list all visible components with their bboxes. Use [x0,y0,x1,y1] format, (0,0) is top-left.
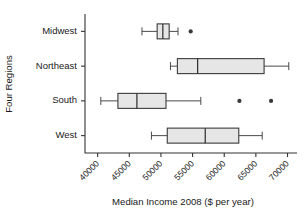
outlier-point [189,29,193,33]
y-tick-label: Northeast [36,60,78,71]
y-tick-label: Midwest [42,25,77,36]
x-tick-label: 45000 [109,158,133,182]
y-tick-label: West [56,129,78,140]
y-tick-label: South [52,94,77,105]
y-axis-title: Four Regions [3,55,14,113]
x-tick-label: 70000 [267,158,291,182]
box [167,128,239,143]
x-tick-label: 40000 [77,158,101,182]
x-tick-label: 55000 [172,158,196,182]
box-series [101,24,289,143]
x-axis-title: Median Income 2008 ($ per year) [112,196,254,207]
plot-canvas: MidwestNortheastSouthWest400004500050000… [0,0,304,210]
boxplot-chart: MidwestNortheastSouthWest400004500050000… [0,0,304,210]
x-tick-label: 65000 [235,158,259,182]
outlier-point [269,99,273,103]
box [177,59,264,74]
box [118,93,166,108]
x-tick-label: 60000 [204,158,228,182]
outlier-point [237,99,241,103]
x-tick-label: 50000 [140,158,164,182]
